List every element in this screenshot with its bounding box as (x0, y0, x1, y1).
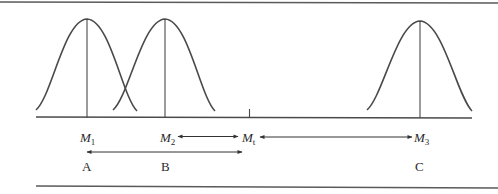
group-label-a: A (82, 160, 91, 173)
label-m3: M3 (414, 131, 429, 147)
label-m2-sub: 2 (171, 137, 176, 147)
bottom-rule (36, 186, 498, 188)
x-axis-baseline (36, 117, 472, 118)
group-label-c: C (415, 160, 424, 173)
label-m2: M2 (160, 131, 175, 147)
label-m1-symbol: M (80, 130, 91, 145)
label-m1: M1 (80, 131, 95, 147)
label-mt: Mt (242, 131, 255, 147)
label-mt-symbol: M (242, 130, 253, 145)
group-label-b: B (161, 160, 170, 173)
label-m3-symbol: M (414, 130, 425, 145)
label-m1-sub: 1 (91, 137, 96, 147)
label-mt-sub: t (253, 137, 256, 147)
label-m2-symbol: M (160, 130, 171, 145)
top-rule (0, 2, 498, 3)
label-m3-sub: 3 (425, 137, 430, 147)
